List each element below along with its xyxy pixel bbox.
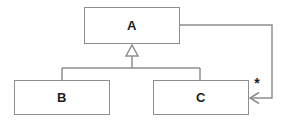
class-box-c: C <box>153 80 249 115</box>
class-label-c: C <box>196 90 206 105</box>
uml-class-diagram: A B C * <box>0 0 286 125</box>
class-box-a: A <box>84 7 180 44</box>
class-label-a: A <box>127 18 137 33</box>
class-label-b: B <box>57 90 67 105</box>
class-box-b: B <box>14 80 110 115</box>
generalization-triangle-icon <box>126 45 138 56</box>
multiplicity-label: * <box>251 76 263 90</box>
